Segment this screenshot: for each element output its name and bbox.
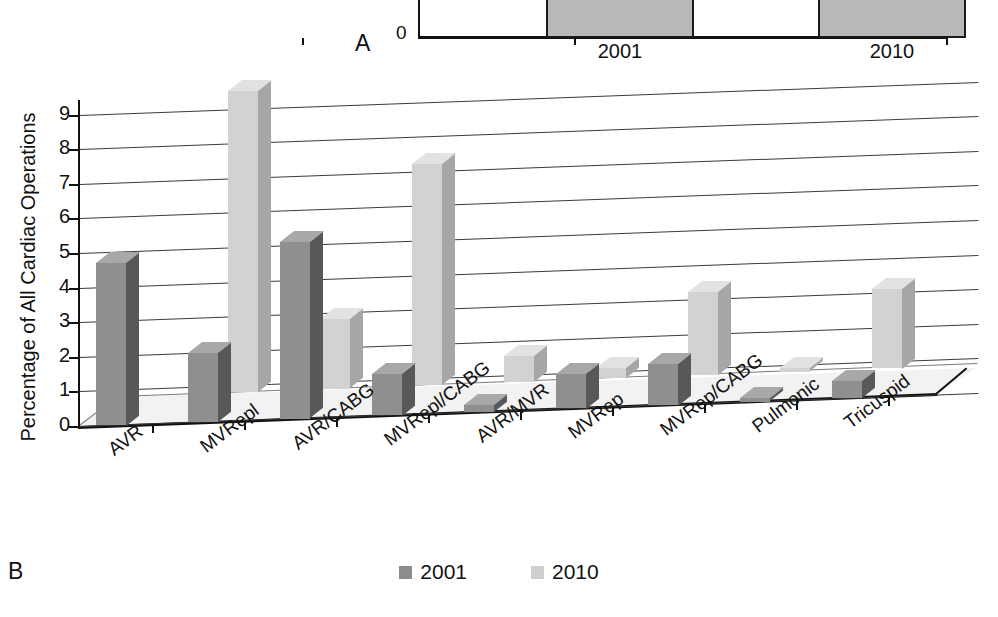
bar-front-face — [504, 356, 534, 382]
y-axis-tick-label: 9 — [44, 102, 70, 125]
legend-item-2010[interactable]: 2010 — [531, 560, 599, 584]
bar-2010-MVRep — [596, 357, 626, 378]
bar-front-face — [188, 353, 218, 422]
panel-b: Percentage of All Cardiac Operations 012… — [0, 60, 998, 617]
bar-2001-MVRep — [556, 363, 586, 409]
bar-front-face — [872, 289, 902, 369]
bar-front-face — [780, 368, 810, 371]
chart-floor — [78, 100, 978, 480]
y-axis-tick-label: 1 — [44, 378, 70, 401]
bar-2001-MVRep/CABG — [648, 353, 678, 406]
bar-2001-MVRepl — [188, 342, 218, 422]
bar-2010-MVRepl — [228, 80, 258, 392]
legend-label-2010: 2010 — [552, 560, 599, 584]
chart-plot-area: 0123456789 AVRMVReplAVR/CABGMVRepl/CABGA… — [78, 100, 978, 480]
bar-side-face — [442, 154, 455, 386]
legend-label-2001: 2001 — [420, 560, 467, 584]
legend-item-2001[interactable]: 2001 — [399, 560, 467, 584]
y-axis-tick — [69, 253, 78, 255]
bar-side-face — [902, 279, 915, 369]
bar-2001-AVR — [96, 252, 126, 426]
y-axis-tick-label: 6 — [44, 205, 70, 228]
bar-2010-MVRep/CABG — [688, 281, 718, 375]
panel-a: A 0 20012010 — [0, 0, 998, 60]
y-axis-tick — [69, 149, 78, 151]
bar-2001-AVR/MVR — [464, 394, 494, 412]
panel-a-bar — [546, 0, 694, 38]
y-axis-tick-label: 3 — [44, 309, 70, 332]
bar-2001-AVR/CABG — [280, 231, 310, 418]
bar-2010-MVRepl/CABG — [412, 153, 442, 385]
bar-side-face — [310, 232, 323, 419]
panel-a-zero-label: 0 — [396, 22, 407, 44]
chart-legend: 20012010 — [0, 557, 998, 587]
bar-front-face — [648, 364, 678, 406]
bar-front-face — [280, 242, 310, 418]
bar-2001-Tricuspid — [832, 370, 862, 398]
y-axis-tick-label: 0 — [44, 413, 70, 436]
y-axis-title: Percentage of All Cardiac Operations — [17, 122, 40, 442]
y-axis-tick-label: 5 — [44, 240, 70, 263]
bar-2001-Pulmonic — [740, 387, 770, 401]
bar-front-face — [320, 319, 350, 388]
panel-a-letter: A — [355, 30, 370, 57]
bar-2010-Tricuspid — [872, 278, 902, 369]
panel-a-x-tick — [946, 38, 948, 45]
bar-front-face — [412, 164, 442, 385]
bar-side-face — [218, 343, 231, 422]
y-axis-tick — [69, 391, 78, 393]
bar-side-face — [350, 309, 363, 388]
panel-a-x-tick — [302, 38, 304, 45]
y-axis-tick-label: 2 — [44, 344, 70, 367]
y-axis-tick — [69, 218, 78, 220]
bar-2010-AVR/CABG — [320, 308, 350, 388]
y-axis-tick — [69, 426, 78, 428]
y-axis-tick — [69, 184, 78, 186]
y-axis-tick-label: 7 — [44, 171, 70, 194]
panel-a-bar — [818, 0, 966, 38]
y-axis-tick — [69, 288, 78, 290]
x-axis-tick — [152, 424, 154, 433]
y-axis-tick-label: 4 — [44, 275, 70, 298]
bar-front-face — [96, 263, 126, 426]
bar-2001-MVRepl/CABG — [372, 363, 402, 416]
bar-front-face — [688, 292, 718, 375]
y-axis-tick — [69, 357, 78, 359]
bar-front-face — [464, 405, 494, 412]
bar-side-face — [718, 282, 731, 375]
y-axis-tick — [69, 322, 78, 324]
y-axis-tick — [69, 115, 78, 117]
legend-swatch-2001 — [399, 566, 412, 579]
bar-side-face — [258, 81, 271, 392]
bar-2010-AVR/MVR — [504, 345, 534, 382]
bar-2010-Pulmonic — [780, 357, 810, 371]
bar-front-face — [596, 368, 626, 378]
bar-front-face — [228, 91, 258, 392]
y-axis-tick-label: 8 — [44, 136, 70, 159]
bar-front-face — [832, 381, 862, 398]
bar-front-face — [556, 374, 586, 409]
panel-a-plot — [418, 0, 948, 38]
bar-side-face — [126, 253, 139, 426]
panel-a-x-tick — [574, 38, 576, 45]
legend-swatch-2010 — [531, 566, 544, 579]
bar-front-face — [740, 398, 770, 401]
